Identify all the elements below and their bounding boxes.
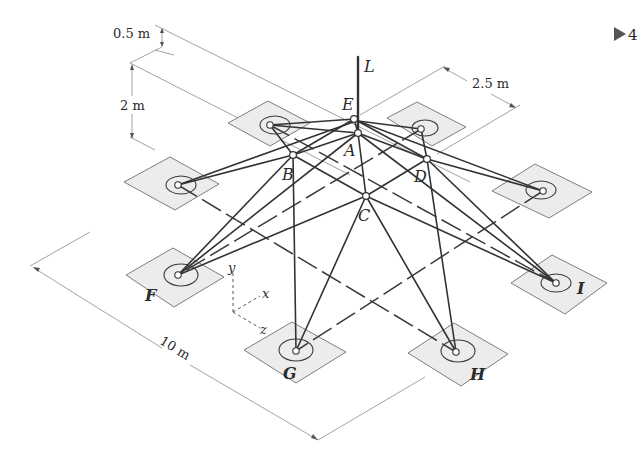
- label-f: F: [144, 286, 158, 305]
- ground-members: [178, 125, 556, 352]
- joint-a: [355, 130, 362, 137]
- label-c: C: [358, 206, 370, 225]
- coordinate-axes: y x z: [227, 260, 270, 337]
- play-triangle-icon: [614, 27, 626, 41]
- next-page-marker[interactable]: 4: [614, 26, 638, 44]
- dim-top-offset: 0.5 m: [113, 26, 150, 41]
- support-pads: [124, 101, 607, 386]
- dim-base-length: 10 m: [157, 333, 193, 363]
- truss-members: [178, 57, 556, 352]
- axis-y-label: y: [227, 260, 236, 275]
- label-g: G: [283, 364, 297, 383]
- axis-x-label: x: [262, 286, 270, 301]
- dim-height: 2 m: [120, 98, 145, 113]
- truss-figure: 4: [0, 0, 638, 462]
- label-i: I: [576, 279, 585, 298]
- label-b: B: [281, 165, 294, 184]
- label-d: D: [413, 167, 427, 186]
- label-h: H: [469, 365, 486, 384]
- joint-b: [290, 152, 297, 159]
- joint-c: [363, 193, 370, 200]
- joint-e: [351, 116, 358, 123]
- load-label: L: [363, 57, 375, 76]
- label-a: A: [342, 141, 356, 160]
- label-e: E: [341, 95, 354, 114]
- joint-d: [424, 156, 431, 163]
- dim-inner-spacing: 2.5 m: [472, 76, 509, 91]
- nav-number: 4: [628, 26, 638, 44]
- axis-z-label: z: [259, 322, 267, 337]
